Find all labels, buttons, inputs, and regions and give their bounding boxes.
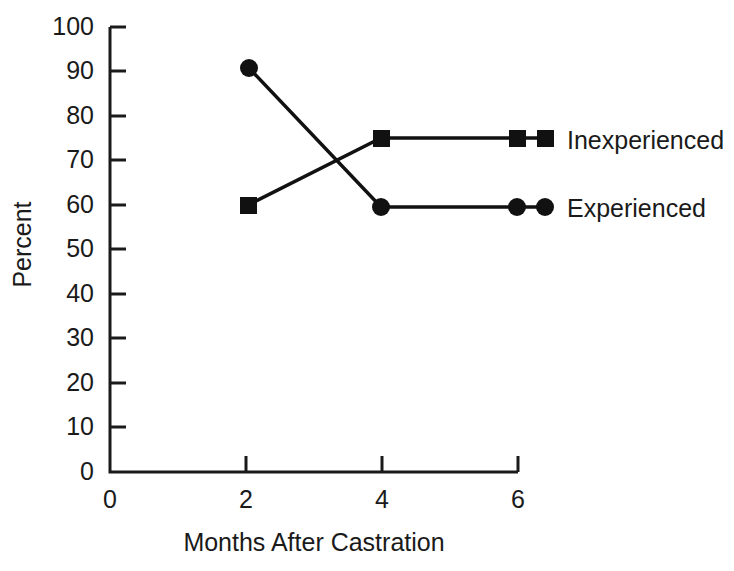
chart-figure: Percent Months After Castration 100 90 8… <box>0 0 734 571</box>
y-axis-ticks <box>110 27 126 427</box>
square-marker-icon <box>240 197 257 214</box>
x-axis-ticks <box>246 456 518 472</box>
square-marker-icon <box>373 130 390 147</box>
circle-marker-icon <box>240 59 258 77</box>
circle-marker-icon <box>536 198 554 216</box>
axis-spines <box>110 27 518 472</box>
plot-canvas <box>0 0 734 571</box>
circle-marker-icon <box>372 198 390 216</box>
series-inexperienced-line <box>248 138 517 205</box>
square-marker-icon <box>537 130 554 147</box>
